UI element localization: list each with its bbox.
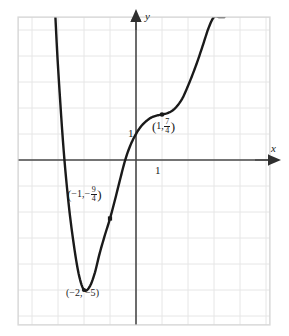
inflection-x-value: 1,	[156, 120, 164, 131]
min-x-value: −2,	[69, 287, 82, 298]
marker-point-neg-one	[108, 216, 112, 220]
graph-figure: y x 1 1 (1,74) (−1,−94) (−2, −5)	[0, 0, 289, 336]
mask-bottom	[0, 325, 289, 336]
inflection-denominator: 4	[164, 127, 170, 135]
paren-close: )	[171, 119, 175, 134]
mask-right	[270, 17, 289, 325]
paren-close: )	[97, 187, 101, 202]
neg-one-x-value: −1,	[71, 188, 84, 199]
mask-left	[0, 17, 18, 325]
neg-one-minus-sign: −	[84, 188, 90, 199]
neg-one-denominator: 4	[91, 195, 97, 203]
label-min-point: (−2, −5)	[66, 288, 99, 298]
coordinate-plane	[0, 0, 289, 336]
label-inflection-point: (1,74)	[152, 118, 175, 136]
label-neg-one-point: (−1,−94)	[67, 186, 101, 204]
x-tick-label-one: 1	[155, 165, 161, 176]
x-axis-label: x	[271, 143, 276, 154]
neg-one-fraction: 94	[91, 186, 97, 204]
min-y-value: −5	[85, 287, 96, 298]
y-axis-label: y	[145, 11, 150, 22]
min-close-paren: )	[96, 287, 99, 298]
inflection-fraction: 74	[164, 118, 170, 136]
plot-background	[18, 17, 270, 325]
marker-inflection	[160, 112, 165, 117]
y-tick-label-one: 1	[128, 128, 134, 139]
